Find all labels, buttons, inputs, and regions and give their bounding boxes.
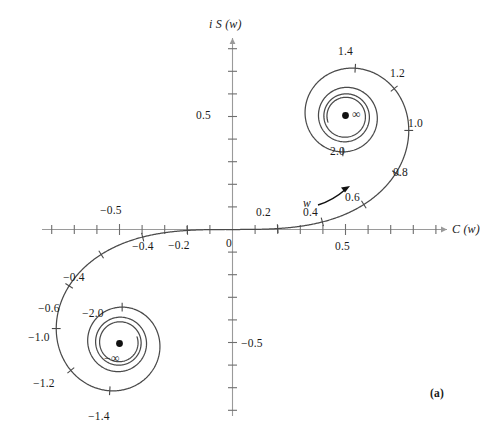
param-label-1-2: 1.2 (390, 68, 405, 80)
param-label-0-6: 0.6 (345, 192, 360, 204)
plot-canvas (0, 0, 484, 441)
param-label-1-0: 1.0 (408, 118, 423, 130)
param-label-neg-1-0: −1.0 (28, 332, 50, 344)
x-tick-label-0-5: 0.5 (335, 241, 350, 253)
label-negative-infinity: −∞ (104, 352, 120, 364)
param-label-0-8: 0.8 (393, 167, 408, 179)
param-label-2-0: 2.0 (330, 146, 345, 158)
param-label-neg-2-0: −2.0 (82, 308, 104, 320)
limit-point-negative-infinity (116, 340, 123, 347)
param-label-neg-1-2: −1.2 (33, 378, 55, 390)
x-tick-label-neg-0-4: −0.4 (132, 241, 154, 253)
label-positive-infinity: ∞ (352, 108, 361, 120)
x-tick-label-0: 0 (226, 238, 232, 250)
direction-arrow-label: w (303, 198, 311, 210)
param-label-neg-1-4: −1.4 (88, 411, 110, 423)
limit-point-positive-infinity (342, 112, 349, 119)
param-label-1-4: 1.4 (338, 46, 353, 58)
axis-x-label: C (w) (452, 223, 480, 235)
y-tick-label-neg-0-5: −0.5 (241, 338, 263, 350)
cornu-spiral-figure: C (w) i S (w) −0.5 −0.4 −0.2 0 0.2 0.5 0… (0, 0, 484, 441)
axis-y (228, 38, 237, 416)
y-tick-label-0-5: 0.5 (196, 110, 211, 122)
x-tick-label-neg-0-5: −0.5 (100, 205, 122, 217)
x-tick-label-0-2: 0.2 (256, 207, 271, 219)
x-tick-label-neg-0-2: −0.2 (168, 240, 190, 252)
panel-label: (a) (430, 388, 444, 400)
param-label-neg-0-8: −0.6 (38, 303, 60, 315)
param-label-neg-0-6: −0.4 (63, 272, 85, 284)
axis-y-label: i S (w) (209, 18, 242, 30)
